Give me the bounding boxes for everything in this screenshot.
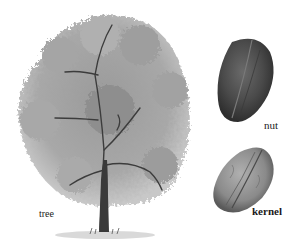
- tree-label: tree: [39, 209, 54, 219]
- pecan-nut-drawing: [218, 39, 274, 122]
- kernel-label: kernel: [252, 206, 282, 217]
- nut-label: nut: [264, 120, 278, 131]
- tree-drawing: [18, 15, 190, 239]
- pecan-kernel-drawing: [213, 148, 273, 213]
